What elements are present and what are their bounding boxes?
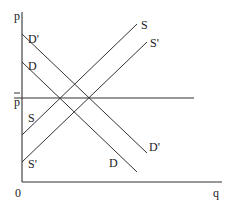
label-d-prime-right: D'	[149, 140, 160, 154]
label-d-bottom: D	[109, 156, 118, 170]
label-s-right: S	[141, 18, 148, 32]
y-axis-label: p	[14, 9, 20, 23]
supply-demand-diagram: p q 0 p D' D S S' S S' D' D	[0, 0, 234, 208]
origin-label: 0	[15, 186, 21, 200]
label-d-prime-top: D'	[28, 32, 39, 46]
demand-curve-d	[22, 62, 137, 172]
price-line-label: p	[14, 95, 20, 109]
label-s-prime-right: S'	[150, 36, 159, 50]
supply-curve-s-prime	[22, 42, 147, 162]
label-s-left: S	[28, 111, 35, 125]
demand-curve-d-prime	[22, 34, 147, 153]
supply-curve-s	[22, 24, 137, 135]
label-d-top: D	[28, 59, 37, 73]
diagram-canvas: p q 0 p D' D S S' S S' D' D	[0, 0, 234, 208]
label-s-prime-left: S'	[28, 157, 37, 171]
x-axis-label: q	[213, 186, 219, 200]
